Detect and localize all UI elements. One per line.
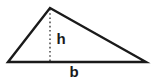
- triangle-diagram-canvas: h b: [0, 0, 152, 79]
- base-label: b: [69, 63, 78, 79]
- height-label: h: [56, 30, 65, 47]
- triangle-diagram: h b: [0, 0, 152, 79]
